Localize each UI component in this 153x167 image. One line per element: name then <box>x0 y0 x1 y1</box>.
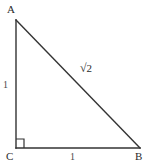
side-label-leg-horizontal: 1 <box>70 152 75 162</box>
side-label-leg-vertical: 1 <box>3 80 8 90</box>
side-label-hypotenuse: √2 <box>80 62 92 74</box>
geometry-diagram: A C B 1 1 √2 <box>0 0 153 167</box>
radical-expression: √2 <box>80 62 92 74</box>
vertex-label-b: B <box>135 151 142 162</box>
triangle-hypotenuse <box>16 20 140 148</box>
vertex-label-a: A <box>7 4 15 15</box>
radicand-value: 2 <box>87 62 93 74</box>
triangle-figure <box>0 0 153 167</box>
radical-sign-icon: √ <box>80 61 87 75</box>
right-angle-marker-icon <box>16 139 24 148</box>
vertex-label-c: C <box>6 151 13 162</box>
